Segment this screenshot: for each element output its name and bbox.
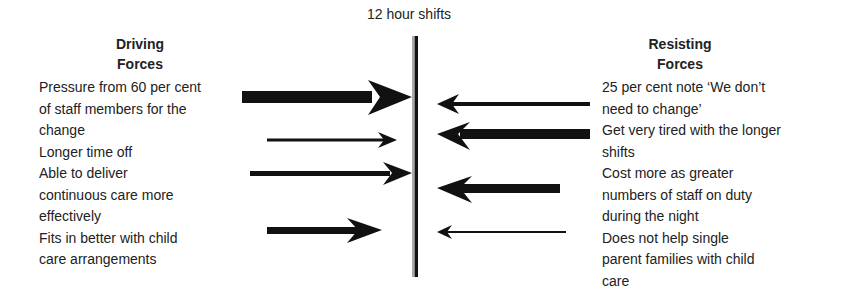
resisting-arrow-3 bbox=[437, 176, 560, 203]
force-field-graphic bbox=[0, 0, 854, 295]
resisting-arrow-4 bbox=[437, 225, 566, 239]
resisting-arrow-2 bbox=[437, 122, 590, 150]
driving-arrow-4 bbox=[267, 218, 382, 243]
resisting-arrow-1 bbox=[437, 94, 590, 114]
driving-arrow-1 bbox=[242, 80, 412, 115]
center-divider-line bbox=[413, 36, 419, 277]
driving-arrow-3 bbox=[250, 162, 412, 185]
driving-arrow-2 bbox=[267, 132, 397, 148]
